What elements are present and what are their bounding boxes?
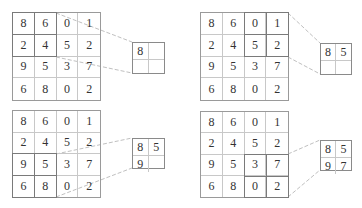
matrix-cell: 0	[57, 13, 79, 35]
input-matrix: 8 6 0 1 2 4 5 2 9 5 3 7 6 8 0 2	[200, 12, 289, 101]
matrix-cell: 5	[57, 35, 79, 57]
matrix-cell: 5	[245, 35, 267, 57]
matrix-cell: 2	[78, 133, 100, 155]
matrix-cell: 8	[35, 78, 57, 100]
matrix-cell: 0	[245, 176, 267, 197]
matrix-cell: 9	[13, 57, 35, 79]
matrix-cell: 4	[35, 133, 57, 155]
matrix-cell: 4	[35, 35, 57, 57]
matrix-cell: 8	[13, 13, 35, 35]
output-cell	[149, 156, 165, 172]
matrix-cell: 2	[78, 78, 100, 100]
output-cell	[133, 60, 149, 73]
input-matrix: 8 6 0 1 2 4 5 2 9 5 3 7 6 8 0 2	[12, 110, 101, 198]
output-cell	[149, 60, 165, 73]
matrix-cell: 8	[223, 176, 245, 197]
matrix-cell: 2	[13, 35, 35, 57]
output-cell: 8	[133, 139, 149, 156]
matrix-cell: 0	[57, 176, 79, 198]
matrix-cell: 0	[57, 78, 79, 100]
output-cell	[149, 43, 165, 60]
matrix-cell: 0	[245, 78, 267, 100]
matrix-cell: 9	[201, 155, 223, 176]
output-matrix: 8 5 9	[132, 138, 165, 169]
matrix-cell: 2	[266, 176, 288, 197]
output-cell: 5	[336, 44, 351, 61]
output-cell: 9	[321, 158, 336, 174]
matrix-cell: 2	[266, 133, 288, 154]
matrix-cell: 6	[223, 112, 245, 133]
matrix-cell: 7	[266, 155, 288, 176]
matrix-cell: 2	[201, 35, 223, 57]
output-cell: 8	[133, 43, 149, 60]
matrix-cell: 2	[201, 133, 223, 154]
matrix-cell: 3	[57, 154, 79, 176]
matrix-cell: 8	[35, 176, 57, 198]
matrix-cell: 6	[13, 78, 35, 100]
matrix-cell: 6	[201, 78, 223, 100]
output-cell: 8	[321, 141, 336, 158]
matrix-cell: 1	[78, 111, 100, 133]
matrix-cell: 6	[13, 176, 35, 198]
matrix-cell: 0	[57, 111, 79, 133]
output-cell: 8	[321, 44, 336, 61]
matrix-cell: 1	[266, 112, 288, 133]
matrix-cell: 8	[13, 111, 35, 133]
output-matrix: 8 5	[320, 43, 352, 75]
output-cell: 5	[336, 141, 351, 158]
matrix-cell: 7	[78, 57, 100, 79]
matrix-cell: 3	[57, 57, 79, 79]
matrix-cell: 5	[245, 133, 267, 154]
matrix-cell: 2	[13, 133, 35, 155]
output-matrix: 8 5 9 7	[320, 140, 352, 171]
matrix-cell: 7	[78, 154, 100, 176]
matrix-cell: 3	[245, 155, 267, 176]
matrix-cell: 0	[245, 13, 267, 35]
matrix-cell: 5	[223, 57, 245, 79]
matrix-cell: 8	[201, 13, 223, 35]
matrix-cell: 2	[78, 176, 100, 198]
matrix-cell: 6	[35, 13, 57, 35]
output-cell	[321, 61, 336, 74]
matrix-cell: 2	[266, 35, 288, 57]
input-matrix: 8 6 0 1 2 4 5 2 9 5 3 7 6 8 0 2	[12, 12, 101, 101]
output-cell: 5	[149, 139, 165, 156]
matrix-cell: 7	[266, 57, 288, 79]
matrix-cell: 1	[266, 13, 288, 35]
output-cell: 9	[133, 156, 149, 172]
output-cell: 7	[336, 158, 351, 174]
matrix-cell: 6	[223, 13, 245, 35]
matrix-cell: 8	[223, 78, 245, 100]
matrix-cell: 6	[201, 176, 223, 197]
matrix-cell: 9	[13, 154, 35, 176]
matrix-cell: 4	[223, 35, 245, 57]
matrix-cell: 0	[245, 112, 267, 133]
matrix-cell: 9	[201, 57, 223, 79]
input-matrix: 8 6 0 1 2 4 5 2 9 5 3 7 6 8 0 2	[200, 111, 289, 198]
matrix-cell: 5	[35, 154, 57, 176]
matrix-cell: 2	[78, 35, 100, 57]
matrix-cell: 8	[201, 112, 223, 133]
matrix-cell: 1	[78, 13, 100, 35]
output-matrix: 8	[132, 42, 165, 74]
matrix-cell: 6	[35, 111, 57, 133]
matrix-cell: 5	[57, 133, 79, 155]
matrix-cell: 2	[266, 78, 288, 100]
matrix-cell: 5	[35, 57, 57, 79]
matrix-cell: 4	[223, 133, 245, 154]
matrix-cell: 5	[223, 155, 245, 176]
output-cell	[336, 61, 351, 74]
matrix-cell: 3	[245, 57, 267, 79]
